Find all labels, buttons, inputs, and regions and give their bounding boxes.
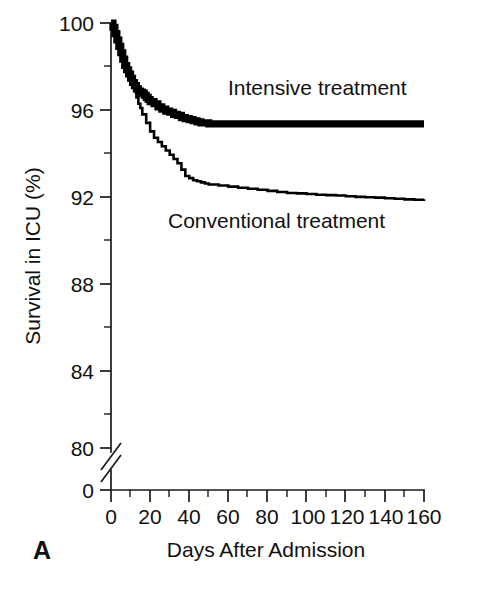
y-axis-group: 100 96 92 88 84 80 0 [59, 12, 121, 502]
survival-curve-chart: 100 96 92 88 84 80 0 [0, 0, 481, 598]
curve-conventional-treatment [111, 23, 424, 200]
x-tick-label-140: 140 [368, 505, 403, 528]
panel-label: A [33, 536, 51, 564]
y-tick-label-0: 0 [82, 479, 94, 502]
y-tick-label-88: 88 [71, 273, 94, 296]
x-axis-title: Days After Admission [167, 538, 365, 561]
y-tick-label-96: 96 [71, 99, 94, 122]
series-label-intensive: Intensive treatment [228, 76, 407, 99]
series-curves [111, 23, 424, 200]
x-tick-label-60: 60 [216, 505, 239, 528]
series-label-conventional: Conventional treatment [168, 209, 385, 232]
y-tick-label-92: 92 [71, 186, 94, 209]
x-tick-label-40: 40 [177, 505, 200, 528]
y-axis-title: Survival in ICU (%) [21, 167, 44, 344]
y-tick-label-84: 84 [71, 360, 95, 383]
x-tick-label-80: 80 [255, 505, 278, 528]
x-tick-label-20: 20 [138, 505, 161, 528]
y-tick-label-80: 80 [71, 437, 94, 460]
x-tick-label-160: 160 [406, 505, 441, 528]
y-tick-label-100: 100 [59, 12, 94, 35]
x-tick-label-0: 0 [105, 505, 117, 528]
x-tick-label-100: 100 [290, 505, 325, 528]
curve-intensive-treatment [111, 23, 424, 124]
x-axis-group: 0 20 40 60 80 100 120 140 160 [105, 490, 441, 528]
x-tick-label-120: 120 [329, 505, 364, 528]
figure-panel-a: 100 96 92 88 84 80 0 [0, 0, 481, 598]
